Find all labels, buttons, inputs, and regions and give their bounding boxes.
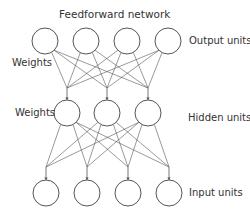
input-unit-node [74, 180, 100, 206]
output-unit-node [32, 28, 58, 54]
output-unit-node [155, 28, 181, 54]
input-units-label: Input units [189, 188, 243, 198]
output-unit-node [73, 28, 99, 54]
diagram-title: Feedforward network [59, 9, 170, 20]
weights-label-top: Weights [12, 58, 52, 68]
input-unit-node [33, 180, 59, 206]
weight-edge-output-hidden [54, 50, 148, 88]
weight-edge-hidden-input [87, 122, 139, 167]
weights-label-bottom: Weights [15, 108, 55, 118]
weight-edge-output-hidden [148, 53, 162, 88]
weight-edge-hidden-input [73, 125, 87, 167]
input-unit-node [156, 180, 182, 206]
hidden-unit-node [135, 100, 161, 126]
input-unit-node [115, 180, 141, 206]
hidden-unit-node [54, 100, 80, 126]
hidden-units-label: Hidden units [188, 113, 250, 123]
output-units-label: Output units [189, 36, 250, 46]
weight-edge-output-hidden [67, 50, 118, 88]
weight-edge-hidden-input [46, 122, 139, 167]
weight-edge-output-hidden [107, 50, 159, 88]
hidden-unit-node [94, 100, 120, 126]
output-unit-node [114, 28, 140, 54]
weight-edge-hidden-input [128, 125, 142, 167]
